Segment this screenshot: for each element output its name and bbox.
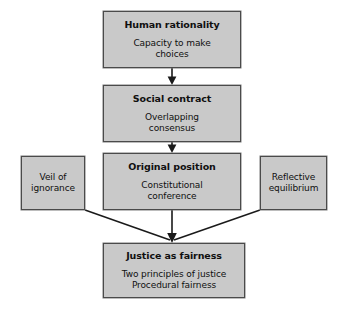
node-justice-as-fairness-title: Justice as fairness [126,250,222,262]
node-reflective-equilibrium: Reflective equilibrium [260,156,327,210]
node-human-rationality-body: Capacity to make choices [133,38,210,61]
node-justice-as-fairness: Justice as fairness Two principles of ju… [103,243,245,298]
node-reflective-equilibrium-body: Reflective equilibrium [269,172,319,195]
node-body-line: Overlapping [145,112,199,124]
node-body-line: choices [133,49,210,61]
node-social-contract-title: Social contract [133,93,211,105]
node-body-line: equilibrium [269,183,319,195]
node-social-contract-body: Overlapping consensus [145,112,199,135]
node-justice-as-fairness-body: Two principles of justice Procedural fai… [122,269,227,292]
node-body-line: consensus [145,123,199,135]
node-social-contract: Social contract Overlapping consensus [103,85,241,142]
node-body-line: Two principles of justice [122,269,227,281]
connector-reflective-equilibrium-to-justice-as-fairness [174,210,260,240]
connector-original-position-to-justice-as-fairness [167,210,177,243]
node-original-position-title: Original position [128,161,215,173]
node-body-line: conference [141,191,202,203]
node-original-position-body: Constitutional conference [141,180,202,203]
connector-social-contract-to-original-position [168,142,177,153]
node-body-line: Veil of [31,172,75,184]
node-body-line: ignorance [31,183,75,195]
connector-human-rationality-to-social-contract [168,68,177,85]
node-veil-of-ignorance-body: Veil of ignorance [31,172,75,195]
node-body-line: Constitutional [141,180,202,192]
node-original-position: Original position Constitutional confere… [103,153,241,210]
node-body-line: Reflective [269,172,319,184]
node-veil-of-ignorance: Veil of ignorance [21,156,85,210]
flowchart-diagram: Human rationality Capacity to make choic… [0,0,346,313]
node-human-rationality: Human rationality Capacity to make choic… [103,11,241,68]
node-body-line: Procedural fairness [122,280,227,292]
node-human-rationality-title: Human rationality [124,19,219,31]
connector-veil-of-ignorance-to-justice-as-fairness [85,210,170,240]
node-body-line: Capacity to make [133,38,210,50]
